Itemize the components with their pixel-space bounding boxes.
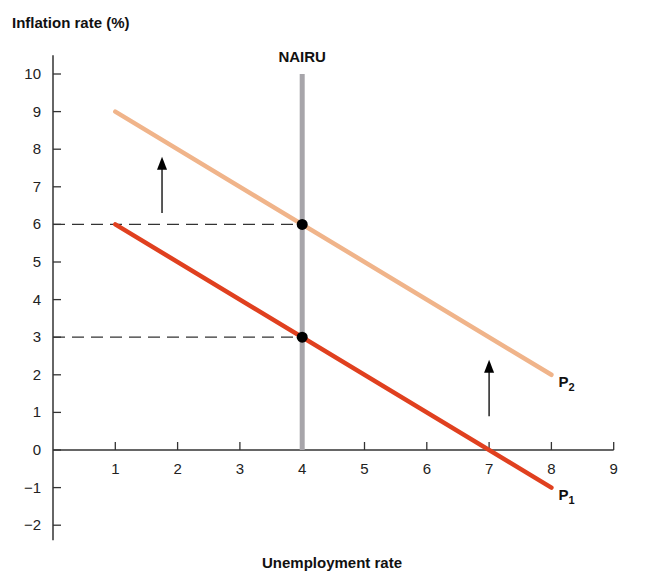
y-tick-label: 6	[33, 215, 41, 232]
equilibrium-point	[297, 332, 308, 343]
y-tick-label: −1	[24, 479, 41, 496]
x-tick-label: 6	[423, 460, 431, 477]
nairu-label: NAIRU	[278, 48, 326, 65]
x-axis-title: Unemployment rate	[262, 554, 402, 571]
y-axis-ticks: −2−1012345678910	[24, 65, 61, 533]
x-tick-label: 4	[298, 460, 306, 477]
shift-arrows	[157, 157, 494, 416]
x-tick-label: 2	[173, 460, 181, 477]
y-tick-label: 9	[33, 103, 41, 120]
y-tick-label: 10	[24, 65, 41, 82]
x-tick-label: 5	[360, 460, 368, 477]
y-tick-label: 8	[33, 140, 41, 157]
x-tick-label: 7	[485, 460, 493, 477]
curve-p2	[115, 112, 551, 375]
y-axis-title: Inflation rate (%)	[12, 14, 130, 31]
x-axis-ticks: 123456789	[111, 442, 618, 477]
x-tick-label: 9	[610, 460, 618, 477]
y-tick-label: 0	[33, 441, 41, 458]
arrow-up-icon	[484, 360, 494, 373]
y-tick-label: −2	[24, 516, 41, 533]
y-tick-label: 1	[33, 403, 41, 420]
curve-p1	[115, 224, 551, 487]
curve-label-p2: P2	[558, 373, 574, 393]
x-tick-label: 3	[236, 460, 244, 477]
curve-label-p1: P1	[558, 486, 574, 506]
nairu-line-group: NAIRU	[278, 48, 326, 450]
y-tick-label: 2	[33, 366, 41, 383]
phillips-curves: P1P2	[115, 112, 574, 506]
y-tick-label: 7	[33, 178, 41, 195]
x-tick-label: 1	[111, 460, 119, 477]
x-tick-label: 8	[547, 460, 555, 477]
arrow-up-icon	[157, 157, 167, 170]
dashed-reference-lines	[53, 224, 302, 337]
y-tick-label: 5	[33, 253, 41, 270]
phillips-curve-chart: Inflation rate (%) −2−1012345678910 1234…	[0, 0, 651, 587]
y-tick-label: 4	[33, 291, 41, 308]
y-tick-label: 3	[33, 328, 41, 345]
equilibrium-point	[297, 219, 308, 230]
